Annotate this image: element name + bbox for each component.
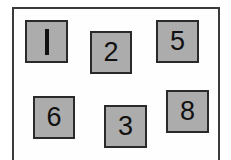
tile-3-label: 3 — [118, 113, 133, 140]
tile-5[interactable]: 5 — [156, 20, 199, 63]
tile-6[interactable]: 6 — [33, 96, 75, 139]
tile-6-label: 6 — [46, 104, 61, 131]
tile-2-label: 2 — [103, 39, 118, 66]
tile-3[interactable]: 3 — [104, 105, 147, 148]
tile-2[interactable]: 2 — [90, 31, 132, 74]
outer-frame: 1 2 5 6 3 8 — [12, 7, 220, 160]
tile-1[interactable]: 1 — [25, 20, 68, 63]
tile-canvas: 1 2 5 6 3 8 — [0, 0, 231, 160]
tile-8-label: 8 — [180, 98, 195, 125]
tile-8[interactable]: 8 — [166, 90, 209, 133]
tile-1-label: 1 — [45, 29, 49, 55]
tile-5-label: 5 — [170, 28, 185, 55]
